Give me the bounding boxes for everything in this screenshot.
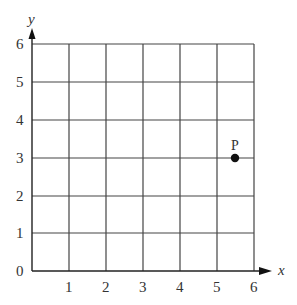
y-axis-arrow-icon — [29, 28, 36, 39]
y-tick-5: 5 — [16, 75, 24, 90]
coordinate-grid — [0, 0, 297, 305]
point-p — [231, 154, 239, 162]
x-tick-6: 6 — [250, 280, 258, 295]
y-axis-label: y — [28, 12, 35, 27]
x-tick-2: 2 — [102, 280, 110, 295]
y-tick-3: 3 — [16, 151, 24, 166]
y-tick-2: 2 — [16, 189, 24, 204]
y-tick-4: 4 — [16, 113, 24, 128]
point-p-label: P — [231, 139, 239, 153]
y-tick-1: 1 — [16, 226, 24, 241]
x-tick-5: 5 — [213, 280, 221, 295]
x-axis-label: x — [278, 263, 285, 278]
x-tick-3: 3 — [139, 280, 147, 295]
y-tick-0: 0 — [16, 264, 24, 279]
x-axis-arrow-icon — [259, 267, 272, 275]
y-tick-6: 6 — [16, 37, 24, 52]
x-tick-1: 1 — [65, 280, 73, 295]
x-tick-4: 4 — [176, 280, 184, 295]
